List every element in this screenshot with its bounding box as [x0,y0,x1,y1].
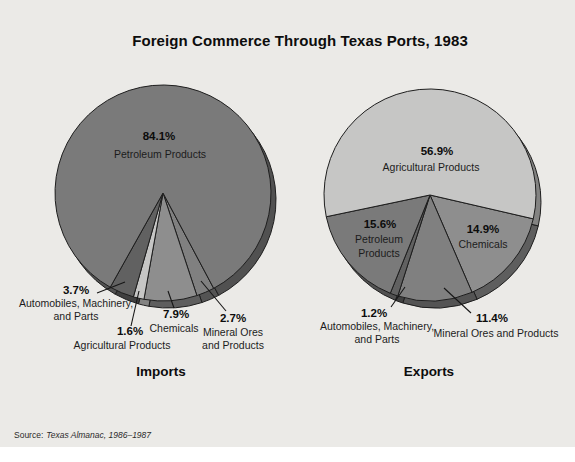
slice-name-label: Petroleum Products [114,148,206,160]
source-note: Source:Texas Almanac, 1986–1987 [14,430,151,440]
exports-caption: Exports [404,364,454,379]
slice-percent-label: 15.6% [364,218,397,230]
slice-name-label: Mineral Ores [203,326,263,338]
slice-percent-label: 84.1% [143,130,176,142]
slice-name-label: Agricultural Products [74,339,171,351]
slice-name-label: Chemicals [458,238,507,250]
chart-panel: Foreign Commerce Through Texas Ports, 19… [0,0,575,447]
slice-percent-label: 7.9% [163,308,189,320]
slice-name-label: Automobiles, Machinery, [320,320,434,332]
slice-name-label: Agricultural Products [383,161,480,173]
slice-name-label: Mineral Ores and Products [434,327,559,339]
slice-percent-label: 56.9% [421,145,454,157]
slice-name-label: Products [358,247,399,259]
source-citation: Texas Almanac, 1986–1987 [46,430,151,440]
slice-name-label: Chemicals [149,322,198,334]
slice-name-label: and Parts [54,310,99,322]
pie-charts-svg: 84.1%Petroleum Products3.7%Automobiles, … [0,0,575,447]
slice-percent-label: 11.4% [476,312,508,324]
slice-name-label: and Products [202,339,264,351]
slice-percent-label: 1.6% [117,325,143,337]
slice-name-label: and Parts [355,333,400,345]
slice-name-label: Petroleum [355,233,403,245]
slice-percent-label: 3.7% [63,284,89,296]
imports-caption: Imports [136,364,186,379]
slice-percent-label: 14.9% [467,223,500,235]
slice-percent-label: 2.7% [220,312,246,324]
source-prefix: Source: [14,430,43,440]
slice-percent-label: 1.2% [361,307,387,319]
slice-name-label: Automobiles, Machinery, [19,297,133,309]
